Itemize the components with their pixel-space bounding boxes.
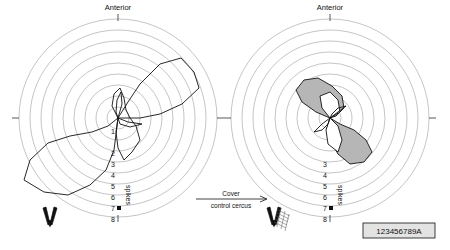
trace-upper-lobe-left bbox=[118, 58, 199, 118]
covered-cercus-hatch bbox=[274, 207, 290, 231]
panel-left: Anterior 1 2 3 4 5 6 7 8 spikes bbox=[12, 3, 224, 226]
radial-tick-4-right: 4 bbox=[323, 172, 327, 179]
cover-annotation: Cover control cercus bbox=[196, 190, 267, 209]
radial-marker-right bbox=[329, 206, 333, 210]
radial-tick-4-left: 4 bbox=[111, 172, 115, 179]
radial-axis-label-right: spikes bbox=[336, 185, 344, 205]
radial-tick-7-right: 7 bbox=[323, 205, 327, 212]
figure-svg: Anterior 1 2 3 4 5 6 7 8 spikes bbox=[0, 0, 450, 250]
scalebar-label: 123456789A bbox=[376, 227, 422, 236]
radial-axis-left: 1 2 3 4 5 6 7 8 spikes bbox=[111, 128, 132, 223]
panel-right: Anterior 3 4 5 6 7 8 spikes bbox=[224, 3, 436, 238]
radial-axis-label-left: spikes bbox=[124, 185, 132, 205]
radial-tick-3-right: 3 bbox=[323, 161, 327, 168]
anterior-label-right: Anterior bbox=[317, 3, 344, 12]
trace-lower-lobe-left bbox=[24, 118, 118, 195]
radial-tick-5-left: 5 bbox=[111, 183, 115, 190]
radial-tick-8-left: 8 bbox=[111, 216, 115, 223]
scalebar: 123456789A bbox=[363, 223, 435, 238]
radial-tick-1-left: 1 bbox=[111, 128, 115, 135]
trace-central-left bbox=[112, 88, 140, 160]
anterior-label-left: Anterior bbox=[105, 3, 132, 12]
radial-axis-right: 3 4 5 6 7 8 spikes bbox=[323, 161, 344, 223]
radial-tick-3-left: 3 bbox=[111, 161, 115, 168]
radial-tick-6-right: 6 bbox=[323, 194, 327, 201]
polar-tuning-figure: Anterior 1 2 3 4 5 6 7 8 spikes bbox=[0, 0, 450, 250]
radial-tick-7-left: 7 bbox=[111, 205, 115, 212]
radial-tick-8-right: 8 bbox=[323, 216, 327, 223]
radial-tick-6-left: 6 bbox=[111, 194, 115, 201]
cover-label-line1: Cover bbox=[222, 190, 240, 197]
cercus-icon-left bbox=[43, 207, 57, 226]
radial-marker-left bbox=[117, 206, 121, 210]
cover-label-line2: control cercus bbox=[211, 202, 252, 209]
radial-tick-5-right: 5 bbox=[323, 183, 327, 190]
cercus-icon-right bbox=[267, 207, 290, 231]
